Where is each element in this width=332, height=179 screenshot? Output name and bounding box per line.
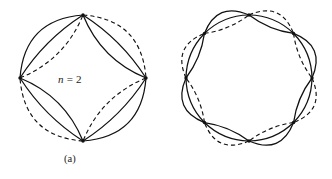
graph-vertex <box>81 139 84 142</box>
graph-vertex <box>184 76 187 79</box>
graph-vertex <box>203 32 206 35</box>
panel-a-caption: (a) <box>64 153 76 164</box>
graph-vertex <box>247 13 250 16</box>
panel-a-variable-label: n = 2 <box>58 73 82 85</box>
graph-vertex <box>247 139 250 142</box>
graph-vertex <box>144 76 147 79</box>
graph-vertex <box>292 32 295 35</box>
graph-vertex <box>310 76 313 79</box>
panel-a-variable-value: 2 <box>76 73 82 85</box>
graph-vertex <box>81 13 84 16</box>
figure-root: n = 2 (a) n = 4 (b) <box>0 0 332 179</box>
graph-vertex <box>292 121 295 124</box>
figure-panel-a: n = 2 (a) <box>0 0 166 179</box>
graph-diagram-n2 <box>0 0 166 179</box>
panel-a-equals: = <box>64 73 76 85</box>
graph-diagram-n4 <box>166 0 332 179</box>
figure-panel-b: n = 4 (b) <box>166 0 332 179</box>
graph-vertex <box>18 76 21 79</box>
graph-vertex <box>203 121 206 124</box>
